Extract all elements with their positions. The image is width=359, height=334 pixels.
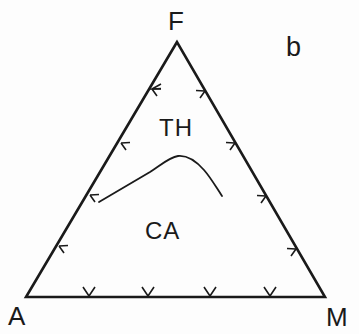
tick-arrow-icon <box>83 287 95 296</box>
tick-arrow-icon <box>196 91 205 99</box>
field-label-ca: CA <box>145 219 180 243</box>
tick-arrow-icon <box>121 143 130 151</box>
boundary-curve <box>99 156 222 202</box>
panel-label: b <box>286 34 301 61</box>
vertex-label-top: F <box>168 8 184 34</box>
tick-arrow-icon <box>264 287 276 296</box>
tick-arrow-icon <box>90 195 99 203</box>
tick-arrow-icon <box>257 196 266 204</box>
vertex-label-bottom-right: M <box>326 304 348 330</box>
tick-arrow-icon <box>204 287 216 296</box>
field-label-th: TH <box>159 116 193 140</box>
right-side-ticks <box>196 91 296 257</box>
tick-arrow-icon <box>59 246 68 254</box>
tick-arrow-icon <box>152 84 161 96</box>
vertex-label-bottom-left: A <box>8 303 25 329</box>
bottom-side-ticks <box>83 287 276 296</box>
ternary-plot-svg <box>0 0 359 334</box>
tick-arrow-icon <box>226 143 235 151</box>
tick-arrow-icon <box>142 287 154 296</box>
tick-arrow-icon <box>287 249 296 257</box>
ternary-diagram: F A M b TH CA <box>0 0 359 334</box>
ternary-triangle <box>26 42 325 297</box>
